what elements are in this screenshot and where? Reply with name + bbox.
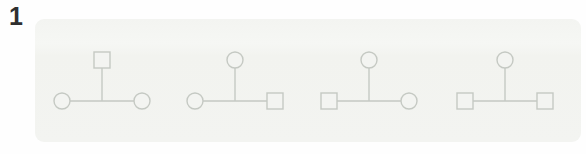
- pedigree-option-4: [456, 51, 554, 109]
- top-circle-symbol: [227, 52, 243, 68]
- question-number: 1: [9, 4, 23, 29]
- bottom-right-square-symbol: [267, 93, 283, 109]
- bottom-left-square-symbol: [457, 93, 473, 109]
- bottom-right-square-symbol: [537, 93, 553, 109]
- bottom-right-circle-symbol: [134, 93, 150, 109]
- top-circle-symbol: [361, 52, 377, 68]
- pedigree-option-2: [186, 51, 284, 109]
- pedigree-option-3: [320, 51, 418, 109]
- top-circle-symbol: [497, 52, 513, 68]
- pedigree-option-1: [53, 51, 151, 109]
- top-square-symbol: [94, 52, 110, 68]
- question-panel: 1: [0, 0, 586, 154]
- bottom-left-circle-symbol: [54, 93, 70, 109]
- bottom-left-square-symbol: [321, 93, 337, 109]
- bottom-left-circle-symbol: [187, 93, 203, 109]
- bottom-right-circle-symbol: [401, 93, 417, 109]
